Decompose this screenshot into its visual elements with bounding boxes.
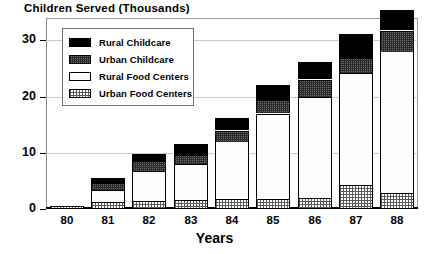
chart-title: Children Served (Thousands): [24, 2, 190, 14]
bar-segment-81-urban-food-centers: [91, 202, 125, 209]
x-tick-label-83: 83: [171, 214, 211, 226]
legend-item-urban-childcare[interactable]: Urban Childcare: [63, 51, 193, 68]
legend-swatch-icon: [69, 38, 91, 47]
x-tick-label-87: 87: [336, 214, 376, 226]
bar-segment-88-urban-childcare: [380, 31, 414, 52]
bar-segment-85-rural-food-centers: [256, 114, 290, 199]
bar-segment-81-urban-childcare: [91, 183, 125, 190]
bar-segment-87-urban-childcare: [339, 58, 373, 73]
legend-swatch-icon: [69, 55, 91, 64]
bar-segment-86-rural-food-centers: [298, 97, 332, 198]
y-tick-10: [40, 153, 46, 154]
bar-segment-82-urban-food-centers: [132, 201, 166, 209]
legend-swatch-icon: [69, 72, 91, 81]
bar-segment-88-urban-food-centers: [380, 193, 414, 209]
bar-segment-84-urban-childcare: [215, 131, 249, 142]
bar-87: [339, 18, 373, 209]
y-tick-0: [40, 209, 46, 210]
legend-item-label: Rural Childcare: [99, 37, 171, 48]
bar-segment-87-rural-childcare: [339, 34, 373, 58]
bar-segment-84-urban-food-centers: [215, 199, 249, 209]
x-tick-label-82: 82: [129, 214, 169, 226]
bar-segment-80-urban-food-centers: [50, 206, 84, 209]
bar-segment-82-rural-childcare: [132, 154, 166, 161]
chart-container: Children Served (Thousands) 0102030 8081…: [0, 0, 429, 254]
x-tick-label-85: 85: [253, 214, 293, 226]
y-tick-30: [40, 40, 46, 41]
bar-segment-83-rural-food-centers: [174, 164, 208, 200]
bar-segment-84-rural-food-centers: [215, 141, 249, 199]
bar-segment-87-urban-food-centers: [339, 185, 373, 209]
legend-item-urban-food-centers[interactable]: Urban Food Centers: [63, 85, 193, 102]
bar-segment-81-rural-childcare: [91, 178, 125, 183]
bar-86: [298, 18, 332, 209]
bar-segment-81-rural-food-centers: [91, 190, 125, 202]
y-tick-label-30: 30: [2, 32, 36, 46]
bar-segment-88-rural-childcare: [380, 10, 414, 30]
x-tick-label-88: 88: [377, 214, 417, 226]
legend-item-label: Rural Food Centers: [99, 71, 189, 82]
bar-segment-83-urban-childcare: [174, 155, 208, 164]
legend-item-label: Urban Childcare: [99, 54, 174, 65]
bar-segment-86-urban-childcare: [298, 80, 332, 97]
y-tick-20: [40, 97, 46, 98]
bar-segment-85-rural-childcare: [256, 85, 290, 100]
y-tick-label-10: 10: [2, 145, 36, 159]
x-tick-label-81: 81: [88, 214, 128, 226]
bar-segment-82-rural-food-centers: [132, 171, 166, 201]
bar-segment-83-urban-food-centers: [174, 200, 208, 209]
bar-segment-88-rural-food-centers: [380, 51, 414, 193]
bar-segment-86-urban-food-centers: [298, 198, 332, 209]
bar-segment-82-urban-childcare: [132, 161, 166, 171]
legend-item-rural-food-centers[interactable]: Rural Food Centers: [63, 68, 193, 85]
bar-84: [215, 18, 249, 209]
bar-segment-83-rural-childcare: [174, 144, 208, 155]
x-tick-label-80: 80: [47, 214, 87, 226]
legend: Rural ChildcareUrban ChildcareRural Food…: [62, 28, 194, 106]
bar-88: [380, 18, 414, 209]
bar-segment-87-rural-food-centers: [339, 73, 373, 185]
bar-segment-85-urban-food-centers: [256, 199, 290, 209]
legend-item-rural-childcare[interactable]: Rural Childcare: [63, 34, 193, 51]
bar-segment-84-rural-childcare: [215, 118, 249, 130]
x-tick-label-86: 86: [295, 214, 335, 226]
x-tick-label-84: 84: [212, 214, 252, 226]
legend-swatch-icon: [69, 89, 91, 98]
bar-segment-85-urban-childcare: [256, 100, 290, 113]
bar-85: [256, 18, 290, 209]
y-tick-label-20: 20: [2, 89, 36, 103]
legend-item-label: Urban Food Centers: [99, 88, 192, 99]
x-axis-title: Years: [0, 230, 429, 246]
y-tick-label-0: 0: [2, 201, 36, 215]
bar-segment-86-rural-childcare: [298, 62, 332, 79]
